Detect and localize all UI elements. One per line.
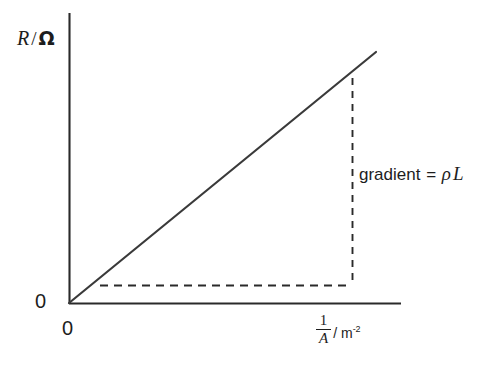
y-axis-label: R/Ω (17, 28, 55, 48)
gradient-annotation-equals: = (425, 165, 437, 184)
origin-label-y-axis: 0 (35, 291, 46, 311)
gradient-annotation-text: gradient (359, 165, 420, 184)
x-axis-fraction: 1 A (316, 313, 331, 347)
x-axis-unit: / m-2 (333, 326, 360, 340)
gradient-annotation: gradient = ρL (359, 164, 464, 183)
x-axis-label: 1 A / m-2 (316, 313, 361, 347)
length-symbol: L (451, 163, 464, 184)
origin-label-x-axis: 0 (62, 318, 73, 338)
x-axis-fraction-numerator: 1 (317, 313, 331, 329)
data-line-linear (69, 52, 376, 303)
x-axis-unit-exponent: -2 (353, 324, 361, 334)
y-axis-separator: / (29, 28, 38, 49)
resistivity-symbol: ρ (442, 163, 451, 184)
x-axis-fraction-denominator: A (316, 330, 331, 346)
x-axis-separator: / (333, 325, 337, 341)
y-axis-quantity-symbol: R (17, 27, 29, 49)
x-axis-unit-symbol: m (341, 325, 353, 341)
y-axis-unit-symbol: Ω (39, 27, 55, 49)
graph-figure: R/Ω 0 0 1 A / m-2 gradient = ρL (0, 0, 495, 366)
